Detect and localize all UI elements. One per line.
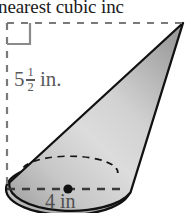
height-unit-label: in.: [40, 69, 62, 90]
diameter-label-clip: 4 in: [45, 191, 115, 213]
cone-diagram-svg: [0, 0, 193, 213]
fraction-denominator: 2: [26, 81, 34, 94]
cone-figure: nearest cubic inc: [0, 0, 193, 213]
cone-body: [9, 23, 183, 211]
fraction-numerator: 1: [26, 66, 34, 79]
height-label: 5 1 2 in.: [14, 66, 62, 94]
height-fraction: 1 2: [26, 66, 35, 94]
height-whole-number: 5: [14, 69, 25, 90]
diameter-label: 4 in: [45, 191, 76, 213]
right-angle-marker-icon: [7, 23, 30, 44]
